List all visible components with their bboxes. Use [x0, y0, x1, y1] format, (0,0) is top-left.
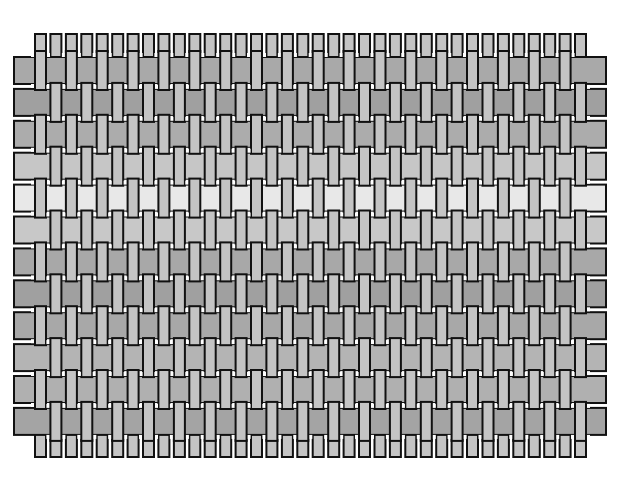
warp-over-segment: [421, 147, 432, 186]
warp-over-segment: [297, 211, 308, 250]
warp-over-segment: [436, 51, 447, 90]
warp-over-segment: [513, 338, 524, 377]
warp-over-segment: [544, 147, 555, 186]
warp-over-segment: [251, 306, 262, 345]
warp-over-segment: [405, 306, 416, 345]
warp-over-segment: [66, 179, 77, 218]
warp-over-segment: [421, 402, 432, 441]
warp-over-segment: [436, 370, 447, 409]
warp-over-segment: [436, 115, 447, 154]
warp-over-segment: [344, 242, 355, 281]
warp-over-segment: [436, 242, 447, 281]
warp-over-segment: [513, 83, 524, 122]
warp-over-segment: [328, 211, 339, 250]
warp-over-segment: [544, 83, 555, 122]
warp-over-segment: [282, 51, 293, 90]
warp-over-segment: [174, 83, 185, 122]
warp-over-segment: [328, 147, 339, 186]
warp-over-segment: [282, 179, 293, 218]
warp-over-segment: [529, 242, 540, 281]
warp-over-segment: [35, 370, 46, 409]
warp-over-segment: [66, 51, 77, 90]
warp-over-segment: [282, 115, 293, 154]
warp-over-segment: [143, 211, 154, 250]
warp-over-segment: [452, 274, 463, 313]
warp-over-segment: [297, 338, 308, 377]
warp-over-segment: [81, 147, 92, 186]
warp-over-segment: [328, 402, 339, 441]
warp-over-segment: [313, 306, 324, 345]
warp-over-segment: [405, 242, 416, 281]
warp-over-segment: [498, 179, 509, 218]
warp-over-segment: [421, 83, 432, 122]
warp-over-segment: [375, 51, 386, 90]
warp-over-segment: [498, 51, 509, 90]
warp-over-segment: [421, 211, 432, 250]
warp-over-segment: [375, 115, 386, 154]
warp-over-segment: [575, 83, 586, 122]
warp-over-segment: [266, 147, 277, 186]
warp-over-segment: [128, 115, 139, 154]
warp-over-segment: [483, 211, 494, 250]
warp-over-segment: [390, 274, 401, 313]
warp-over-segment: [297, 83, 308, 122]
warp-over-segment: [97, 370, 108, 409]
warp-over-segment: [529, 179, 540, 218]
warp-over-segment: [313, 51, 324, 90]
warp-over-segment: [35, 115, 46, 154]
warp-over-segment: [81, 83, 92, 122]
warp-over-segment: [313, 179, 324, 218]
warp-over-segment: [205, 402, 216, 441]
warp-over-segment: [344, 306, 355, 345]
warp-over-segment: [220, 242, 231, 281]
warp-over-segment: [81, 402, 92, 441]
warp-over-segment: [498, 306, 509, 345]
warp-over-segment: [282, 306, 293, 345]
warp-over-segment: [390, 83, 401, 122]
warp-over-segment: [529, 115, 540, 154]
warp-over-segment: [575, 274, 586, 313]
warp-over-segment: [236, 147, 247, 186]
warp-over-segment: [344, 179, 355, 218]
warp-over-segment: [452, 338, 463, 377]
warp-over-segment: [483, 83, 494, 122]
warp-over-segment: [112, 274, 123, 313]
warp-over-segment: [359, 147, 370, 186]
warp-over-segment: [236, 274, 247, 313]
warp-over-segment: [375, 306, 386, 345]
warp-over-segment: [97, 306, 108, 345]
warp-over-segment: [560, 51, 571, 90]
warp-over-segment: [112, 147, 123, 186]
warp-over-segment: [143, 402, 154, 441]
warp-over-segment: [297, 147, 308, 186]
warp-over-segment: [143, 338, 154, 377]
warp-over-segment: [266, 402, 277, 441]
warp-over-segment: [174, 402, 185, 441]
warp-over-segment: [390, 402, 401, 441]
warp-over-segment: [189, 179, 200, 218]
warp-over-segment: [529, 51, 540, 90]
warp-over-segment: [560, 179, 571, 218]
warp-over-segment: [174, 274, 185, 313]
warp-over-segment: [359, 338, 370, 377]
warp-over-segment: [375, 242, 386, 281]
warp-over-segment: [560, 306, 571, 345]
warp-over-segment: [97, 179, 108, 218]
warp-over-segment: [66, 370, 77, 409]
warp-over-segment: [483, 402, 494, 441]
warp-over-segment: [97, 115, 108, 154]
warp-over-segment: [50, 402, 61, 441]
warp-over-segment: [575, 211, 586, 250]
warp-over-segment: [375, 370, 386, 409]
warp-over-segment: [359, 83, 370, 122]
warp-over-segment: [220, 370, 231, 409]
warp-over-segment: [158, 179, 169, 218]
warp-over-segment: [560, 242, 571, 281]
warp-over-segment: [313, 370, 324, 409]
warp-over-segment: [174, 211, 185, 250]
warp-over-segment: [344, 115, 355, 154]
warp-over-segment: [467, 306, 478, 345]
warp-over-segment: [112, 83, 123, 122]
warp-over-segment: [35, 306, 46, 345]
warp-over-segment: [236, 211, 247, 250]
